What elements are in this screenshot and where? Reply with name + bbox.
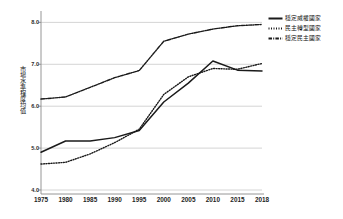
legend-line-swatch [268, 15, 283, 22]
legend-line-swatch [268, 35, 283, 42]
legend-item-label: 穩定民主國家 [285, 35, 321, 42]
legend-item-label: 穩定威權國家 [285, 15, 321, 22]
legend-line-swatch [268, 25, 283, 32]
legend-item-2[interactable]: 民主轉型國家 [268, 24, 342, 33]
legend-item-label: 民主轉型國家 [285, 25, 321, 32]
chart-legend: 穩定威權國家民主轉型國家穩定民主國家 [268, 14, 342, 44]
x-tick-label: 2018 [247, 196, 277, 203]
legend-item-3[interactable]: 穩定民主國家 [268, 34, 342, 43]
chart-container: 市場水準程度均值 8.07.06.05.04.0 197519801985199… [0, 0, 343, 219]
legend-item-1[interactable]: 穩定威權國家 [268, 14, 342, 23]
